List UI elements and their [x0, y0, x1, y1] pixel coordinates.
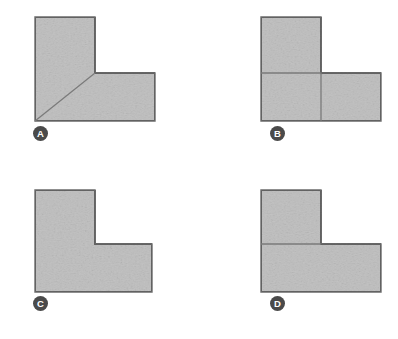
answer-option-b[interactable]: B — [199, 0, 398, 170]
option-label-b: B — [270, 126, 285, 141]
answer-option-d[interactable]: D — [199, 169, 398, 339]
option-label-d: D — [270, 296, 285, 311]
l-shape-c — [35, 190, 152, 292]
answer-option-c[interactable]: C — [0, 169, 199, 339]
shape-d-svg — [199, 169, 398, 339]
option-label-a: A — [33, 126, 48, 141]
option-label-c: C — [33, 296, 48, 311]
shape-b-svg — [199, 0, 398, 170]
shape-c-svg — [0, 169, 199, 339]
shape-a-svg — [0, 0, 199, 170]
answer-choice-grid: A B — [0, 0, 398, 339]
answer-option-a[interactable]: A — [0, 0, 199, 170]
